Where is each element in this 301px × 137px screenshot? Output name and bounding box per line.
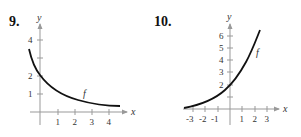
- svg-text:4: 4: [107, 117, 112, 127]
- svg-text:1: 1: [28, 89, 33, 99]
- x-axis-label: x: [130, 106, 136, 117]
- svg-text:-3: -3: [186, 114, 194, 124]
- svg-text:2: 2: [253, 114, 258, 124]
- svg-text:3: 3: [90, 117, 95, 127]
- svg-text:6: 6: [219, 31, 224, 41]
- svg-text:2: 2: [73, 117, 78, 127]
- svg-text:1: 1: [56, 117, 61, 127]
- svg-text:5: 5: [219, 43, 224, 53]
- svg-text:3: 3: [219, 67, 224, 77]
- svg-text:4: 4: [28, 35, 33, 45]
- function-label: f: [83, 88, 87, 99]
- svg-text:-2: -2: [199, 114, 207, 124]
- x-axis-label: x: [282, 103, 288, 114]
- graphs: y x 1 2 3 4 1 2 4 f y x: [0, 0, 301, 137]
- svg-text:-1: -1: [211, 114, 219, 124]
- svg-text:2: 2: [219, 80, 224, 90]
- function-label: f: [256, 47, 260, 58]
- y-axis-label: y: [226, 11, 232, 22]
- svg-text:4: 4: [219, 55, 224, 65]
- svg-text:2: 2: [28, 71, 33, 81]
- chart-10: y x -3 -2 -1 1 2 3 2 3 4 5 6 f: [183, 11, 288, 125]
- svg-text:1: 1: [240, 114, 245, 124]
- y-axis-label: y: [36, 12, 42, 23]
- chart-9: y x 1 2 3 4 1 2 4 f: [28, 12, 136, 127]
- svg-text:3: 3: [265, 114, 270, 124]
